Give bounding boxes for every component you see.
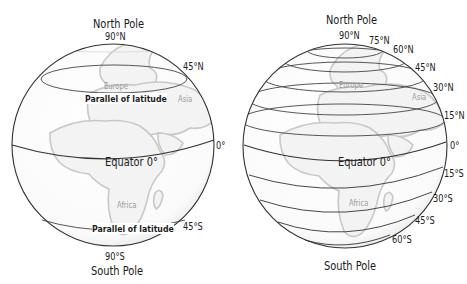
right-60n-label: 60°N — [393, 44, 414, 55]
left-north-pole-title: North Pole — [93, 17, 144, 31]
left-region-africa: Africa — [117, 201, 136, 210]
right-90n-label: 90°N — [339, 30, 360, 41]
right-45n-label: 45°N — [415, 62, 436, 73]
right-south-pole-title: South Pole — [324, 259, 376, 273]
right-15n-label: 15°N — [444, 110, 465, 121]
right-30n-label: 30°N — [433, 82, 454, 93]
right-equator-label: Equator 0° — [338, 155, 391, 169]
left-south-pole-title: South Pole — [91, 264, 143, 278]
left-parallel-label-north: Parallel of latitude — [85, 93, 167, 104]
right-north-pole-title: North Pole — [326, 13, 377, 27]
right-region-africa: Africa — [349, 199, 368, 208]
left-region-europe: Europe — [104, 82, 128, 91]
right-region-europe: Europe — [339, 81, 363, 90]
left-equator-label: Equator 0° — [105, 155, 158, 169]
right-0-label: 0° — [450, 140, 459, 151]
right-60s-label: 60°S — [392, 234, 412, 245]
left-region-asia: Asia — [178, 95, 192, 104]
right-30s-label: 30°S — [433, 193, 453, 204]
left-90n-label: 90°N — [105, 31, 126, 42]
left-45n-label: 45°N — [183, 61, 204, 72]
left-parallel-label-south: Parallel of latitude — [92, 223, 174, 234]
right-15s-label: 15°S — [444, 168, 464, 179]
left-45s-label: 45°S — [183, 221, 203, 232]
right-region-asia: Asia — [412, 93, 426, 102]
left-globe — [0, 8, 263, 246]
right-75n-label: 75°N — [369, 35, 390, 46]
left-0-label: 0° — [216, 140, 225, 151]
right-45s-label: 45°S — [415, 215, 435, 226]
left-90s-label: 90°S — [105, 251, 125, 262]
